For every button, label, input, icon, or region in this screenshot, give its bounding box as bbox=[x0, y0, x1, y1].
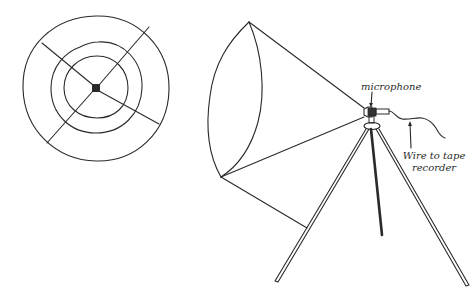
tripod-leg-center bbox=[371, 129, 382, 235]
microphone-cable bbox=[389, 111, 445, 138]
wire-label-line2: recorder bbox=[396, 162, 472, 173]
reflector-side-view bbox=[208, 22, 364, 228]
tripod-leg-left bbox=[275, 129, 369, 282]
dish-outer-arc bbox=[208, 22, 249, 177]
tripod bbox=[275, 116, 469, 286]
wire-label-line1: Wire to tape bbox=[396, 150, 472, 161]
spoke-top-left bbox=[42, 43, 93, 85]
microphone-body bbox=[376, 109, 389, 114]
microphone-unit bbox=[364, 92, 445, 148]
center-microphone bbox=[92, 84, 100, 92]
dish-inner-arc bbox=[221, 22, 262, 177]
wire-pointer-line bbox=[410, 123, 411, 148]
dish-lower-edge bbox=[221, 177, 307, 228]
microphone-pointer-arrow bbox=[369, 103, 373, 107]
microphone-grille bbox=[368, 108, 376, 116]
microphone-label: microphone bbox=[361, 81, 421, 92]
reflector-front-view bbox=[23, 16, 169, 161]
dish-top-edge bbox=[249, 22, 364, 108]
wire-pointer-arrow bbox=[408, 121, 412, 126]
